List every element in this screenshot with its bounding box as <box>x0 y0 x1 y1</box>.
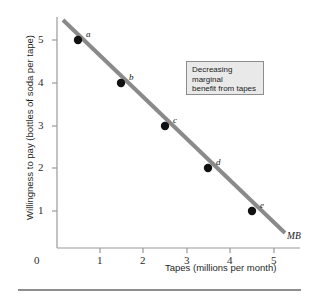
x-axis-title: Tapes (millions per month) <box>165 262 276 273</box>
y-tick-label-3: 3 <box>38 119 44 131</box>
y-axis-ticks <box>52 40 57 211</box>
y-axis-title: Willingness to pay (bottles of soda per … <box>24 25 35 230</box>
y-tick-label-2: 2 <box>38 161 44 173</box>
marginal-benefit-chart: 5 4 3 2 1 0 1 2 3 4 5 a b c d e MB Willi… <box>0 0 316 299</box>
decreasing-marginal-benefit-callout: Decreasing marginal benefit from tapes <box>186 61 264 95</box>
y-tick-label-5: 5 <box>38 33 44 45</box>
y-tick-label-1: 1 <box>38 204 44 216</box>
x-tick-label-0: 0 <box>34 254 40 266</box>
data-point-e <box>248 207 256 215</box>
data-point-c <box>161 122 169 130</box>
callout-line-2: marginal <box>192 75 259 85</box>
data-point-b <box>117 79 125 87</box>
y-tick-label-4: 4 <box>38 76 44 88</box>
callout-line-3: benefit from tapes <box>192 84 259 94</box>
point-label-b: b <box>129 72 134 82</box>
x-tick-label-2: 2 <box>140 254 146 266</box>
data-point-a <box>74 36 82 44</box>
x-axis-ticks <box>100 248 274 253</box>
data-point-d <box>204 164 212 172</box>
marginal-benefit-line <box>63 20 285 233</box>
mb-curve-label: MB <box>287 231 301 241</box>
footer-divider <box>18 289 301 291</box>
plot-area <box>0 0 316 299</box>
point-label-d: d <box>216 157 221 167</box>
point-label-a: a <box>86 29 91 39</box>
point-label-c: c <box>173 115 177 125</box>
x-tick-label-1: 1 <box>97 254 103 266</box>
callout-line-1: Decreasing <box>192 65 259 75</box>
point-label-e: e <box>260 200 264 210</box>
